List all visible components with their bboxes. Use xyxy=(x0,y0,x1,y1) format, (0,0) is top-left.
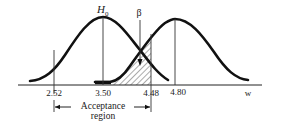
tick-label-3-50: 3.50 xyxy=(95,88,111,98)
acceptance-region-label-line2: region xyxy=(91,111,116,121)
tick-label-2-52: 2.52 xyxy=(46,88,62,98)
h1-distribution-curve xyxy=(95,19,248,82)
h0-label: H0 xyxy=(96,3,109,18)
tick-label-4-80: 4.80 xyxy=(170,87,186,97)
acceptance-right-arrowhead-icon xyxy=(145,105,150,109)
acceptance-left-arrowhead-icon xyxy=(55,105,60,109)
hypothesis-test-diagram: H0 β 2.52 3.50 4.48 4.80 w Acceptance re… xyxy=(0,0,290,123)
beta-label: β xyxy=(137,7,142,18)
acceptance-region-label-line1: Acceptance xyxy=(81,101,125,111)
tick-label-4-48: 4.48 xyxy=(143,88,159,98)
axis-variable-label: w xyxy=(245,88,252,98)
